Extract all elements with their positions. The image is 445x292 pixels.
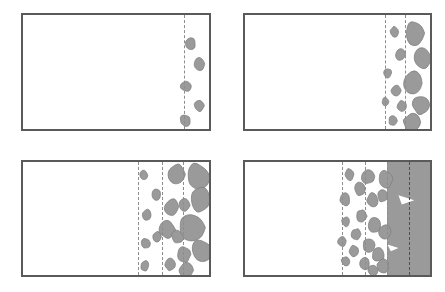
corrosion-blob xyxy=(180,81,191,91)
corrosion-blob xyxy=(188,163,209,189)
front-line-3 xyxy=(387,162,388,275)
panel-c-blob-layer xyxy=(23,162,209,275)
panel-c-inner xyxy=(23,162,209,275)
corrosion-blob xyxy=(179,198,190,211)
panel-d-inner xyxy=(245,162,430,275)
front-line-2 xyxy=(405,15,406,129)
corrosion-blob xyxy=(179,262,193,275)
front-line-2 xyxy=(365,162,366,275)
panel-d-blob-layer xyxy=(245,162,430,275)
corrosion-blob xyxy=(404,71,422,94)
slab-void xyxy=(387,244,398,251)
front-line-1 xyxy=(385,15,386,129)
corrosion-blob xyxy=(378,190,388,202)
corrosion-blob xyxy=(192,240,209,261)
corrosion-blob xyxy=(185,38,195,50)
corrosion-blob xyxy=(414,48,430,69)
corrosion-blob xyxy=(368,265,378,275)
panel-b xyxy=(243,13,432,131)
corrosion-blob xyxy=(389,116,397,126)
front-line-1 xyxy=(184,15,185,129)
corrosion-blob xyxy=(355,182,365,196)
corrosion-blob xyxy=(361,170,374,184)
front-line-dark xyxy=(409,162,410,275)
corrosion-blob xyxy=(412,97,430,115)
panel-d xyxy=(243,160,432,277)
corrosion-blob xyxy=(165,258,176,271)
panel-c xyxy=(21,160,211,277)
panel-b-blob-layer xyxy=(245,15,430,129)
figure-root xyxy=(0,0,445,292)
panel-a xyxy=(21,13,211,131)
corrosion-blob xyxy=(349,245,358,257)
front-line-2 xyxy=(162,162,163,275)
front-line-3 xyxy=(183,162,184,275)
corrosion-blob xyxy=(194,58,205,71)
corrosion-blob xyxy=(194,100,204,111)
corrosion-blob xyxy=(153,231,162,242)
corrosion-blob xyxy=(367,193,378,207)
corrosion-blob xyxy=(396,49,406,61)
corrosion-blob xyxy=(140,170,148,179)
corrosion-blob xyxy=(141,261,149,271)
panel-a-blob-layer xyxy=(23,15,209,129)
panel-a-inner xyxy=(23,15,209,129)
front-line-1 xyxy=(138,162,139,275)
corrosion-blob xyxy=(164,199,178,216)
corrosion-blob xyxy=(141,238,150,248)
corrosion-blob xyxy=(142,209,151,220)
front-line-1 xyxy=(342,162,343,275)
corrosion-blob xyxy=(351,229,361,240)
corrosion-blob xyxy=(406,22,424,46)
corrosion-blob xyxy=(379,170,393,188)
corrosion-blob xyxy=(191,187,209,212)
corrosion-blob xyxy=(152,189,160,200)
corrosion-blob xyxy=(390,26,399,37)
panel-b-inner xyxy=(245,15,430,129)
corrosion-blob xyxy=(345,169,354,181)
corrosion-blob xyxy=(391,85,401,96)
slab-void xyxy=(398,195,414,204)
